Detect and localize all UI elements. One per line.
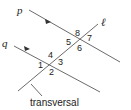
angle-3: 3 bbox=[58, 57, 63, 67]
angle-6: 6 bbox=[77, 43, 82, 53]
angle-4: 4 bbox=[48, 50, 53, 60]
angle-7: 7 bbox=[87, 33, 92, 43]
transversal-pointer bbox=[31, 84, 42, 96]
angle-1: 1 bbox=[38, 60, 43, 70]
parallel-arrow-q-icon bbox=[24, 46, 30, 51]
line-q bbox=[14, 46, 100, 92]
angle-5: 5 bbox=[66, 37, 71, 47]
label-p: p bbox=[16, 4, 23, 16]
angle-2: 2 bbox=[49, 67, 54, 77]
label-l: ℓ bbox=[101, 16, 106, 28]
parallel-lines-diagram: p ℓ q 8 5 7 6 4 1 3 2 transversal bbox=[0, 0, 131, 110]
label-q: q bbox=[2, 37, 8, 49]
angle-8: 8 bbox=[75, 28, 80, 38]
transversal-caption: transversal bbox=[30, 97, 79, 108]
